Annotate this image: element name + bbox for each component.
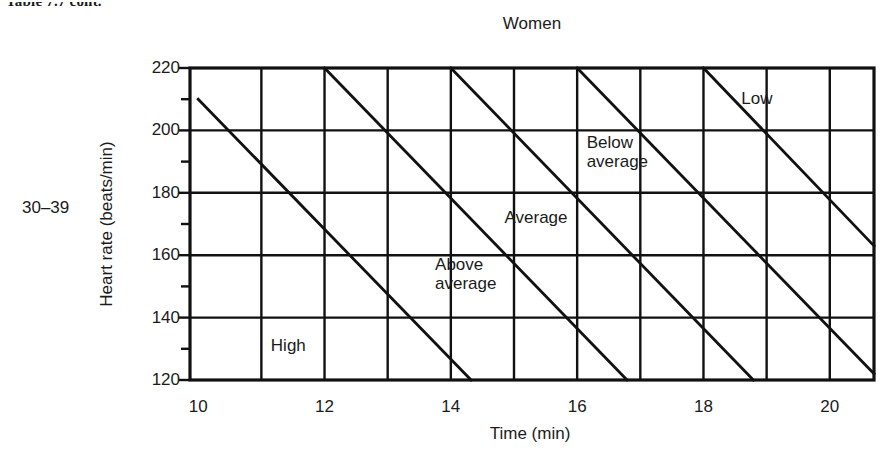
- zone-label-above-average: Above average: [435, 255, 496, 293]
- zone-label-average: Average: [505, 208, 568, 227]
- zone-label-high: High: [271, 336, 306, 355]
- zone-label-below-average: Below average: [587, 133, 648, 171]
- zone-labels: HighAbove averageAverageBelow averageLow: [0, 0, 896, 463]
- chart-figure: Table 7.7 cont. Women 30–39 Heart rate (…: [0, 0, 896, 463]
- zone-label-low: Low: [741, 89, 772, 108]
